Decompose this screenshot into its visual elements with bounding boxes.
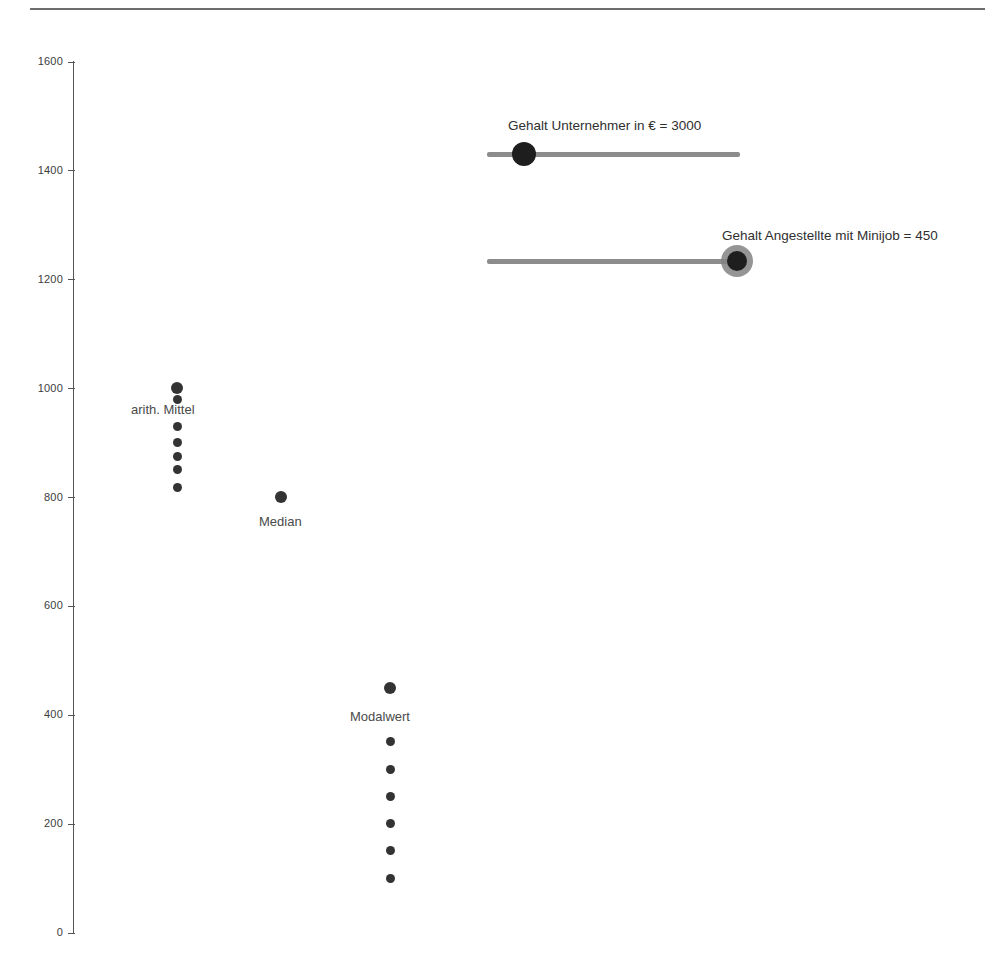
y-tick-mark [68,388,75,389]
slider-gehalt-angestellte-minijob-handle[interactable] [727,251,747,271]
data-point [386,846,395,855]
data-point [173,422,182,431]
data-point [384,682,396,694]
y-tick-mark [68,279,75,280]
y-tick-label: 800 [18,492,63,503]
slider-gehalt-angestellte-minijob-track[interactable] [487,259,740,264]
data-point [386,765,395,774]
y-tick-mark [68,606,75,607]
series-label-modalwert: Modalwert [350,710,410,724]
y-tick-label: 200 [18,818,63,829]
y-tick-label: 600 [18,600,63,611]
data-point [386,737,395,746]
data-point [171,382,183,394]
data-point [173,465,182,474]
top-divider [30,8,985,10]
y-tick-mark [68,715,75,716]
y-tick-label: 1600 [18,56,63,67]
data-point [173,438,182,447]
data-point [275,491,287,503]
slider-gehalt-unternehmer-handle[interactable] [512,142,536,166]
y-tick-mark [68,497,75,498]
y-tick-mark [68,170,75,171]
slider-gehalt-unternehmer-label: Gehalt Unternehmer in € = 3000 [508,118,701,133]
series-label-arith-mittel: arith. Mittel [131,403,195,417]
y-tick-mark [68,933,75,934]
y-tick-label: 1200 [18,274,63,285]
y-tick-label: 400 [18,709,63,720]
data-point [173,452,182,461]
data-point [386,792,395,801]
y-tick-mark [68,62,75,63]
series-label-median: Median [259,515,302,529]
chart-canvas: 02004006008001000120014001600 arith. Mit… [0,0,995,969]
y-tick-label: 0 [18,927,63,938]
data-point [173,483,182,492]
y-tick-label: 1000 [18,383,63,394]
y-tick-mark [68,824,75,825]
data-point [386,874,395,883]
data-point [386,819,395,828]
slider-gehalt-angestellte-minijob-label: Gehalt Angestellte mit Minijob = 450 [722,228,938,243]
y-tick-label: 1400 [18,165,63,176]
